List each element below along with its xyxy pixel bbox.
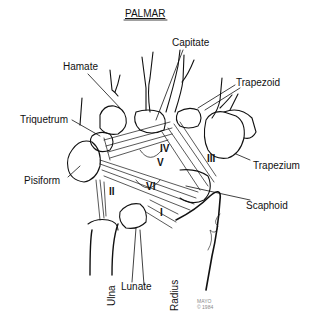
label-capitate: Capitate — [172, 37, 209, 48]
label-lunate: Lunate — [121, 281, 152, 292]
ligament-label-ii: II — [109, 186, 115, 197]
label-hamate: Hamate — [63, 61, 98, 72]
label-triquetrum: Triquetrum — [20, 114, 68, 125]
label-pisiform: Pisiform — [24, 175, 60, 186]
ligament-label-iv: IV — [160, 143, 169, 154]
signature-line2: © 1984 — [197, 305, 213, 310]
label-trapezoid: Trapezoid — [236, 77, 280, 88]
ligament-label-vi: VI — [146, 181, 155, 192]
label-trapezium: Trapezium — [253, 160, 300, 171]
ligament-label-iii: III — [207, 153, 215, 164]
label-scaphoid: Scaphoid — [246, 200, 288, 211]
ligament-label-v: V — [157, 157, 164, 168]
ligament-bands — [96, 122, 216, 228]
label-radius: Radius — [169, 280, 180, 311]
metacarpals — [80, 50, 238, 125]
label-ulna: Ulna — [106, 285, 117, 306]
view-title: PALMAR — [125, 8, 165, 19]
ligament-label-i: I — [160, 207, 163, 218]
